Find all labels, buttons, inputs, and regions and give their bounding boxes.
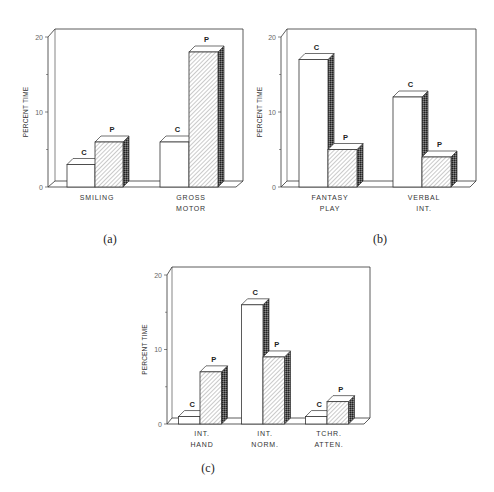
- x-category-label: HAND: [190, 441, 213, 448]
- x-category-label: NORM.: [251, 441, 278, 448]
- chart-b: 01020PERCENT TIMECPFANTASYPLAYCPVERBALIN…: [256, 29, 476, 246]
- figure-caption: (c): [201, 461, 214, 475]
- bar-p-1: P: [263, 340, 291, 424]
- bar-p-1: P: [189, 35, 224, 187]
- y-tick-label: 10: [268, 109, 276, 116]
- chart-c: 01020PERCENT TIMECPINT.HANDCPINT.NORM.CP…: [141, 267, 370, 475]
- bar-p-2: P: [327, 385, 355, 424]
- x-category-label: GROSS: [176, 194, 205, 201]
- y-tick-label: 10: [154, 346, 162, 353]
- x-category-label: ATTEN.: [314, 441, 343, 448]
- x-category-label: FANTASY: [312, 194, 349, 201]
- y-tick-label: 0: [39, 184, 43, 191]
- bar-series-label: C: [253, 288, 259, 297]
- y-axis-label: PERCENT TIME: [256, 86, 263, 137]
- bar-p-0: P: [200, 355, 228, 424]
- bar-series-label: C: [408, 80, 414, 89]
- bar-p-0: P: [95, 125, 129, 187]
- bar-series-label: C: [314, 43, 320, 52]
- bar-series-label: P: [343, 133, 348, 142]
- x-category-label: MOTOR: [176, 205, 206, 212]
- bar-series-label: P: [109, 125, 114, 134]
- bar-series-label: P: [437, 140, 442, 149]
- chart-a: 01020PERCENT TIMECPSMILINGCPGROSSMOTOR(a…: [22, 29, 243, 246]
- bar-series-label: C: [317, 400, 323, 409]
- figure-canvas: 01020PERCENT TIMECPSMILINGCPGROSSMOTOR(a…: [0, 0, 494, 492]
- bar-series-label: P: [204, 35, 209, 44]
- bar-series-label: C: [81, 148, 87, 157]
- x-category-label: PLAY: [320, 205, 341, 212]
- x-category-label: INT.: [257, 430, 273, 437]
- bar-series-label: C: [190, 400, 196, 409]
- y-tick-label: 20: [268, 34, 276, 41]
- y-tick-label: 20: [35, 34, 43, 41]
- y-tick-label: 0: [158, 421, 162, 428]
- y-tick-label: 10: [35, 109, 43, 116]
- y-axis-label: PERCENT TIME: [22, 86, 29, 137]
- bar-series-label: P: [338, 385, 343, 394]
- x-category-label: TCHR.: [316, 430, 341, 437]
- bar-series-label: C: [175, 125, 181, 134]
- x-category-label: INT.: [194, 430, 210, 437]
- x-category-label: VERBAL: [408, 194, 440, 201]
- y-axis-label: PERCENT TIME: [141, 324, 148, 375]
- figure-caption: (a): [103, 232, 116, 246]
- y-tick-label: 20: [154, 272, 162, 279]
- bar-series-label: P: [274, 340, 279, 349]
- bar-series-label: P: [211, 355, 216, 364]
- figure-caption: (b): [373, 232, 387, 246]
- y-tick-label: 0: [272, 184, 276, 191]
- x-category-label: SMILING: [80, 194, 114, 201]
- x-category-label: INT.: [416, 205, 432, 212]
